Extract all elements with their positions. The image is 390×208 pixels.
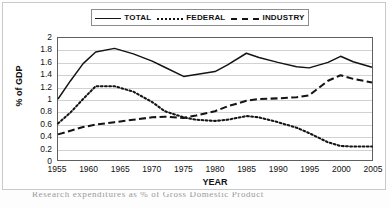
y-tick-0.6: 0.6 bbox=[40, 119, 52, 129]
legend-swatch-dashed-icon bbox=[231, 14, 259, 22]
y-tick-1.8: 1.8 bbox=[40, 44, 52, 54]
x-tick-1995: 1995 bbox=[300, 164, 319, 174]
y-tick-0.8: 0.8 bbox=[40, 106, 52, 116]
y-tick-0.4: 0.4 bbox=[40, 131, 52, 141]
series-line-industry bbox=[58, 75, 372, 134]
y-axis-tick-labels: 21.81.61.41.210.80.60.40.20 bbox=[23, 37, 54, 161]
x-tick-1980: 1980 bbox=[206, 164, 225, 174]
legend-swatch-solid-icon bbox=[95, 14, 121, 22]
figure-caption: Research expenditures as % of Gross Dome… bbox=[32, 192, 264, 199]
legend-label-federal: FEDERAL bbox=[186, 13, 225, 22]
legend-swatch-dotted-icon bbox=[157, 14, 183, 22]
chart-legend: TOTAL FEDERAL INDUSTRY bbox=[91, 9, 309, 26]
x-tick-2000: 2000 bbox=[332, 164, 351, 174]
x-axis-title: YEAR bbox=[57, 177, 373, 187]
figure-caption-clip: Research expenditures as % of Gross Dome… bbox=[2, 192, 386, 208]
series-line-total bbox=[58, 48, 372, 99]
x-tick-1955: 1955 bbox=[48, 164, 67, 174]
chart-figure: TOTAL FEDERAL INDUSTRY % of GDP 21.81.61… bbox=[0, 0, 390, 208]
x-tick-1970: 1970 bbox=[142, 164, 161, 174]
x-tick-1985: 1985 bbox=[237, 164, 256, 174]
legend-label-industry: INDUSTRY bbox=[262, 13, 304, 22]
y-tick-1: 1 bbox=[47, 94, 52, 104]
y-tick-1.4: 1.4 bbox=[40, 69, 52, 79]
y-tick-2: 2 bbox=[47, 32, 52, 42]
legend-entry-federal: FEDERAL bbox=[157, 13, 225, 22]
chart-frame: TOTAL FEDERAL INDUSTRY % of GDP 21.81.61… bbox=[2, 2, 386, 190]
legend-entry-industry: INDUSTRY bbox=[231, 13, 304, 22]
legend-entry-total: TOTAL bbox=[95, 13, 151, 22]
y-tick-0.2: 0.2 bbox=[40, 144, 52, 154]
y-tick-1.2: 1.2 bbox=[40, 82, 52, 92]
x-tick-1990: 1990 bbox=[269, 164, 288, 174]
series-lines bbox=[58, 38, 372, 160]
x-axis-tick-labels: 1955196019651970197519801985199019952000… bbox=[57, 164, 373, 176]
plot-area bbox=[57, 37, 373, 161]
series-line-federal bbox=[58, 86, 372, 146]
x-tick-2005: 2005 bbox=[364, 164, 383, 174]
x-tick-1965: 1965 bbox=[111, 164, 130, 174]
x-tick-1975: 1975 bbox=[174, 164, 193, 174]
y-tick-1.6: 1.6 bbox=[40, 57, 52, 67]
legend-label-total: TOTAL bbox=[124, 13, 151, 22]
x-tick-1960: 1960 bbox=[79, 164, 98, 174]
